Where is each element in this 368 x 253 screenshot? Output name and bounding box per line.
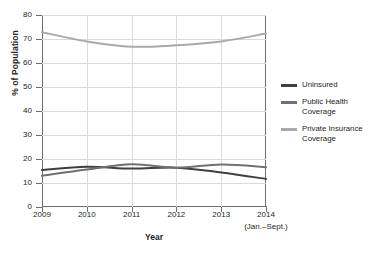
- legend-item[interactable]: Uninsured: [281, 80, 367, 90]
- series-line: [42, 167, 266, 179]
- legend-color-swatch: [281, 128, 297, 131]
- legend-label: Public Health Coverage: [302, 97, 364, 117]
- legend-color-swatch: [281, 84, 297, 87]
- legend-label: Uninsured: [302, 80, 338, 90]
- line-chart: % of Population 01020304050607080 200920…: [0, 0, 368, 253]
- x-axis-title: Year: [42, 232, 266, 242]
- chart-legend: UninsuredPublic Health CoveragePrivate I…: [281, 80, 367, 151]
- legend-item[interactable]: Private Insurance Coverage: [281, 124, 367, 144]
- legend-label: Private Insurance Coverage: [302, 124, 364, 144]
- legend-color-swatch: [281, 101, 297, 104]
- series-line: [42, 32, 266, 47]
- legend-item[interactable]: Public Health Coverage: [281, 97, 367, 117]
